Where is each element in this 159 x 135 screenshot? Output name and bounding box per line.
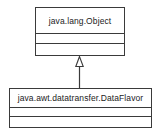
class-attributes-compartment (10, 107, 151, 116)
class-name-label: java.awt.datatransfer.DataFlavor (18, 93, 144, 103)
class-operations-compartment (36, 43, 124, 55)
uml-diagram-canvas: java.lang.Object java.awt.datatransfer.D… (0, 0, 159, 135)
uml-class-java-lang-object[interactable]: java.lang.Object (35, 7, 125, 56)
class-name-compartment: java.lang.Object (36, 8, 124, 33)
class-name-label: java.lang.Object (49, 16, 112, 26)
class-operations-compartment (10, 116, 151, 127)
uml-class-java-awt-datatransfer-dataflavor[interactable]: java.awt.datatransfer.DataFlavor (9, 88, 152, 128)
class-attributes-compartment (36, 33, 124, 43)
class-name-compartment: java.awt.datatransfer.DataFlavor (10, 89, 151, 107)
hollow-triangle-arrowhead-icon (76, 57, 83, 67)
